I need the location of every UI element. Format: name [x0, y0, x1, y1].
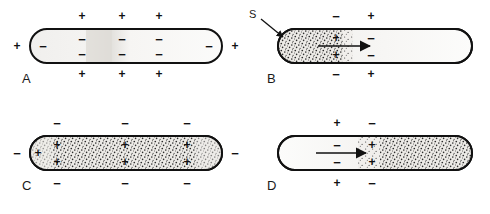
charge-sign-minus-a: − [153, 48, 165, 61]
charge-sign-plus-a: + [229, 40, 241, 52]
charge-sign-minus-a: − [153, 33, 165, 46]
charge-sign-minus-d: − [366, 117, 378, 130]
stimulus-label-s: S [249, 8, 256, 20]
charge-sign-minus-c: − [11, 147, 23, 160]
charge-sign-plus-b: + [330, 49, 342, 61]
charge-sign-plus-d: + [331, 177, 343, 189]
charge-sign-plus-b: + [365, 68, 377, 80]
charge-sign-minus-a: − [76, 33, 88, 46]
charge-sign-plus-b: + [365, 10, 377, 22]
charge-sign-plus-d: + [331, 117, 343, 129]
charge-sign-minus-c: − [119, 177, 131, 190]
panel-label-c: C [22, 178, 32, 193]
charge-sign-minus-c: − [181, 117, 193, 130]
charge-sign-plus-c: + [32, 147, 44, 159]
charge-sign-minus-b: − [330, 68, 342, 81]
charge-sign-minus-a: − [37, 40, 49, 53]
charge-sign-minus-a: − [116, 33, 128, 46]
charge-sign-plus-a: + [153, 10, 165, 22]
charge-sign-plus-a: + [116, 68, 128, 80]
charge-sign-plus-c: + [51, 139, 63, 151]
figure-nerve-impulse-propagation: A B C D S ++++++++−−−−−−−−−+−+++−−−−−−−−… [0, 0, 490, 214]
charge-sign-minus-a: − [116, 48, 128, 61]
charge-sign-plus-a: + [76, 68, 88, 80]
charge-sign-minus-d: − [366, 177, 378, 190]
figure-canvas [0, 0, 490, 214]
charge-sign-plus-a: + [76, 10, 88, 22]
panel-label-b: B [267, 71, 276, 86]
charge-sign-plus-c: + [51, 156, 63, 168]
charge-sign-minus-b: − [365, 32, 377, 45]
charge-sign-plus-c: + [119, 139, 131, 151]
panel-label-a: A [22, 71, 31, 86]
charge-sign-minus-b: − [365, 49, 377, 62]
charge-sign-minus-a: − [76, 48, 88, 61]
charge-sign-plus-c: + [119, 156, 131, 168]
charge-sign-plus-c: + [181, 139, 193, 151]
panel-b-stimulus-arrow [261, 19, 283, 37]
charge-sign-minus-d: − [331, 139, 343, 152]
charge-sign-minus-d: − [331, 156, 343, 169]
charge-sign-plus-d: + [366, 156, 378, 168]
panel-a-interior-shading [86, 30, 112, 62]
charge-sign-plus-a: + [11, 40, 23, 52]
panel-label-d: D [267, 178, 277, 193]
charge-sign-plus-d: + [366, 139, 378, 151]
charge-sign-plus-a: + [153, 68, 165, 80]
charge-sign-plus-a: + [116, 10, 128, 22]
charge-sign-minus-c: − [181, 177, 193, 190]
charge-sign-plus-c: + [181, 156, 193, 168]
charge-sign-minus-b: − [330, 10, 342, 23]
charge-sign-minus-c: − [51, 117, 63, 130]
charge-sign-plus-b: + [330, 32, 342, 44]
charge-sign-minus-c: − [229, 147, 241, 160]
charge-sign-minus-a: − [203, 40, 215, 53]
charge-sign-minus-c: − [51, 177, 63, 190]
charge-sign-minus-c: − [119, 117, 131, 130]
